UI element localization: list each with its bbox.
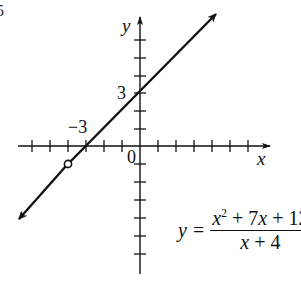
- y-axis-label: y: [120, 15, 131, 36]
- equation-lhs: y: [178, 219, 187, 242]
- fraction: x2 + 7x + 12 x + 4: [210, 207, 301, 253]
- origin-label: 0: [127, 147, 136, 167]
- numerator: x2 + 7x + 12: [210, 207, 301, 231]
- function-line: [19, 14, 216, 219]
- open-circle-hole: [64, 160, 71, 167]
- function-equation: y = x2 + 7x + 12 x + 4: [178, 207, 301, 253]
- equals-sign: =: [193, 219, 204, 242]
- y-intercept-label: 3: [117, 83, 126, 103]
- x-axis-label: x: [256, 148, 266, 169]
- x-intercept-label: −3: [68, 117, 87, 137]
- x-axis: [18, 140, 270, 152]
- denominator: x + 4: [240, 231, 280, 253]
